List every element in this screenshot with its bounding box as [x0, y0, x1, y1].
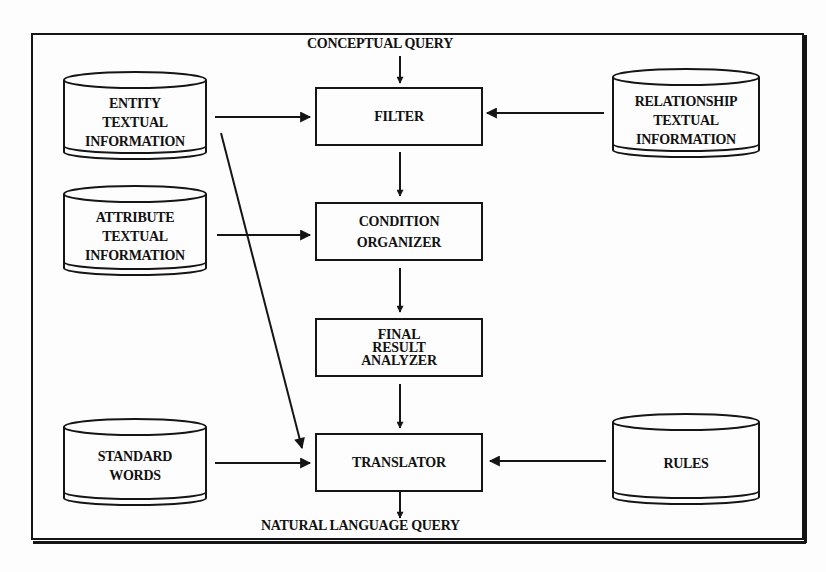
datastore-label: TEXTUAL — [102, 113, 168, 132]
process-condition-organizer: CONDITION ORGANIZER — [315, 202, 483, 261]
datastore-attribute-textual-information: ATTRIBUTE TEXTUAL INFORMATION — [64, 206, 206, 266]
datastore-entity-textual-information: ENTITY TEXTUAL INFORMATION — [64, 92, 206, 152]
datastore-label: RELATIONSHIP — [635, 92, 738, 111]
datastore-rules: RULES — [613, 452, 759, 474]
datastore-label: INFORMATION — [636, 130, 736, 149]
process-label: ANALYZER — [361, 354, 437, 367]
process-translator: TRANSLATOR — [315, 433, 483, 492]
datastore-label: WORDS — [109, 466, 160, 485]
datastore-label: TEXTUAL — [653, 111, 719, 130]
input-label: CONCEPTUAL QUERY — [307, 36, 453, 52]
datastore-label: INFORMATION — [85, 132, 185, 151]
datastore-label: INFORMATION — [85, 246, 185, 265]
datastore-relationship-textual-information: RELATIONSHIP TEXTUAL INFORMATION — [613, 90, 759, 150]
datastore-label: RULES — [663, 454, 708, 473]
process-final-result-analyzer: FINAL RESULT ANALYZER — [315, 318, 483, 377]
datastore-label: STANDARD — [98, 447, 172, 466]
datastore-label: ENTITY — [109, 94, 161, 113]
datastore-standard-words: STANDARD WORDS — [64, 444, 206, 488]
process-filter: FILTER — [315, 87, 483, 146]
process-label: TRANSLATOR — [352, 454, 446, 471]
datastore-label: ATTRIBUTE — [96, 208, 175, 227]
output-label: NATURAL LANGUAGE QUERY — [261, 518, 460, 534]
datastore-label: TEXTUAL — [102, 227, 168, 246]
process-label: ORGANIZER — [357, 234, 442, 251]
arrow-entity-to-translator — [221, 133, 302, 448]
process-label: CONDITION — [359, 213, 440, 230]
process-label: FILTER — [374, 108, 424, 125]
